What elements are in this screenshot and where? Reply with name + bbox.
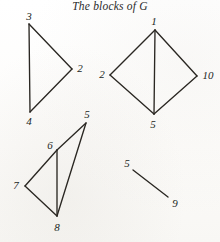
block-diamond-12-10-5 (110, 30, 197, 114)
graph-edge-5-9 (133, 170, 168, 197)
vertex-label-block-5678-8: 8 (54, 222, 60, 233)
block-edge-59 (133, 170, 168, 197)
vertex-label-block-diamond-12-10-5-2: 2 (99, 69, 105, 80)
graph-edge-7-8 (25, 186, 57, 216)
vertex-label-block-edge-59-5: 5 (124, 158, 130, 169)
vertex-label-block-edge-59-9: 9 (172, 198, 178, 209)
graph-edge-2-4 (30, 69, 72, 112)
block-5678 (25, 123, 86, 216)
vertex-label-block-triangle-324-3: 3 (26, 11, 32, 22)
graph-edge-3-2 (29, 24, 72, 69)
graph-edge-4-3 (29, 24, 30, 112)
vertex-label-block-5678-7: 7 (13, 180, 19, 191)
graph-edge-1-10 (155, 30, 197, 76)
blocks-of-g-figure: The blocks of G 32412105567859 (0, 0, 220, 242)
graph-edges-layer (0, 0, 220, 242)
vertex-label-block-diamond-12-10-5-1: 1 (151, 16, 157, 27)
vertex-label-block-diamond-12-10-5-10: 10 (203, 70, 214, 81)
graph-edge-1-2 (110, 30, 155, 75)
graph-edge-1-5 (154, 30, 155, 114)
vertex-label-block-5678-6: 6 (47, 140, 53, 151)
vertex-label-block-triangle-324-2: 2 (77, 63, 83, 74)
vertex-label-block-triangle-324-4: 4 (26, 116, 32, 127)
vertex-label-block-diamond-12-10-5-5: 5 (150, 119, 156, 130)
graph-edge-6-7 (25, 150, 57, 186)
graph-edge-2-5 (110, 75, 154, 114)
block-triangle-324 (29, 24, 72, 112)
vertex-label-block-5678-5: 5 (84, 109, 90, 120)
graph-edge-10-5 (154, 76, 197, 114)
